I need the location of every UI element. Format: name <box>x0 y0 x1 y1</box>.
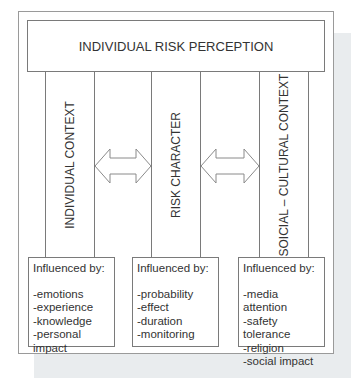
factors-list: -emotions -experience -knowledge -person… <box>33 288 111 356</box>
title-box: INDIVIDUAL RISK PERCEPTION <box>27 20 325 72</box>
double-arrow-icon <box>200 148 260 184</box>
double-arrow-icon <box>94 148 152 184</box>
factors-list: -media attention -safety tolerance -reli… <box>243 288 321 369</box>
factor-item: -social impact <box>243 355 321 369</box>
factor-item: -effect <box>137 301 215 315</box>
factor-item: -religion <box>243 342 321 356</box>
column-label: INDIVIDUAL CONTEXT <box>63 101 77 229</box>
factors-box-social: Influenced by: -media attention -safety … <box>238 257 325 347</box>
factor-item: -probability <box>137 288 215 302</box>
factors-heading: Influenced by: <box>137 262 215 276</box>
column-label: RISK CHARACTER <box>169 111 183 217</box>
factors-heading: Influenced by: <box>243 262 321 276</box>
column-label: SOICIAL – CULTURAL CONTEXT <box>277 73 291 256</box>
diagram-title: INDIVIDUAL RISK PERCEPTION <box>79 39 274 54</box>
factor-item: -knowledge <box>33 315 111 329</box>
factor-item: -duration <box>137 315 215 329</box>
column-risk-character: RISK CHARACTER <box>151 71 201 258</box>
factor-item: -emotions <box>33 288 111 302</box>
column-social-cultural-context: SOICIAL – CULTURAL CONTEXT <box>259 71 309 258</box>
factor-item: -personal impact <box>33 328 111 355</box>
factor-item: -monitoring <box>137 328 215 342</box>
factor-item: -media attention <box>243 288 321 315</box>
factor-item: -safety tolerance <box>243 315 321 342</box>
column-individual-context: INDIVIDUAL CONTEXT <box>45 71 95 258</box>
factor-item: -experience <box>33 301 111 315</box>
factors-list: -probability -effect -duration -monitori… <box>137 288 215 342</box>
factors-box-risk: Influenced by: -probability -effect -dur… <box>132 257 219 347</box>
factors-box-individual: Influenced by: -emotions -experience -kn… <box>28 257 115 347</box>
factors-heading: Influenced by: <box>33 262 111 276</box>
